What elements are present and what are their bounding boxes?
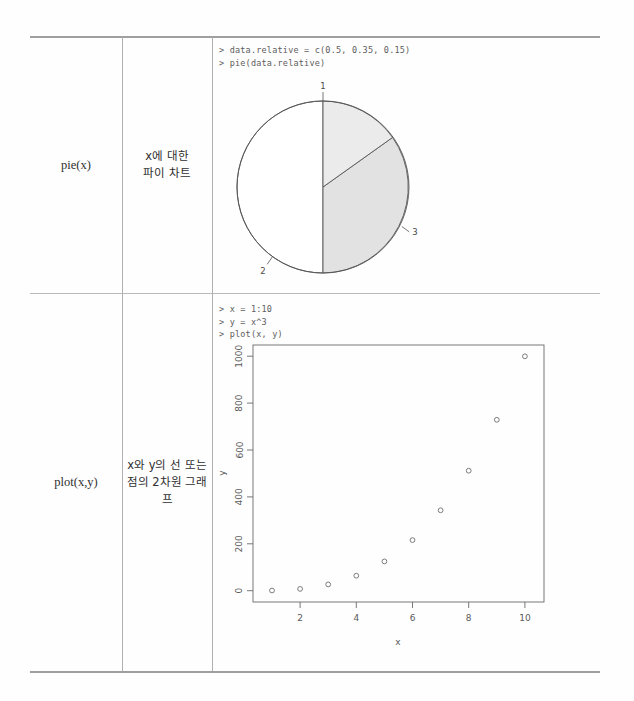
y-axis-ticks xyxy=(247,356,253,591)
pie-slice-1 xyxy=(237,101,323,273)
row-1-description-line-1: x에 대한 xyxy=(143,148,191,165)
y-tick-label-400: 400 xyxy=(235,488,245,505)
x-axis-tick-labels: 2 4 6 8 10 xyxy=(297,613,531,623)
y-tick-label-200: 200 xyxy=(235,535,245,552)
data-point-9 xyxy=(494,417,499,422)
data-point-7 xyxy=(438,508,443,513)
x-tick-label-2: 2 xyxy=(297,613,303,623)
y-tick-label-1000: 1000 xyxy=(235,344,245,367)
scatter-plot-panel: 0 200 400 600 800 1000 2 4 6 8 10 xyxy=(212,336,592,656)
pie-label-1: 1 xyxy=(320,81,325,91)
data-point-6 xyxy=(410,538,415,543)
data-point-5 xyxy=(382,559,387,564)
x-tick-label-4: 4 xyxy=(353,613,359,623)
data-point-10 xyxy=(523,354,528,359)
table-bottom-border xyxy=(30,671,600,673)
row-1-code-block: > data.relative = c(0.5, 0.35, 0.15) > p… xyxy=(219,44,410,69)
row-2-function-label: plot(x,y) xyxy=(54,473,97,491)
pie-label-2: 2 xyxy=(260,266,265,276)
data-point-8 xyxy=(466,468,471,473)
x-tick-label-10: 10 xyxy=(519,613,531,623)
row-1-function-cell: pie(x) xyxy=(30,37,122,293)
y-axis-tick-labels: 0 200 400 600 800 1000 xyxy=(235,344,245,593)
pie-tick-2 xyxy=(267,257,272,265)
y-axis-label: y xyxy=(217,470,227,476)
data-point-4 xyxy=(354,573,359,578)
plot-box xyxy=(253,345,544,602)
row-1-description-line-2: 파이 차트 xyxy=(143,165,191,182)
pie-tick-3 xyxy=(402,227,409,232)
row-2-description-line-2: 점의 2차원 그래프 xyxy=(122,474,212,507)
x-axis-ticks xyxy=(300,602,525,608)
row-1-function-label: pie(x) xyxy=(61,156,91,174)
x-tick-label-6: 6 xyxy=(410,613,416,623)
pie-label-3: 3 xyxy=(412,227,417,237)
row-2-code-block: > x = 1:10 > y = x^3 > plot(x, y) xyxy=(219,303,283,341)
x-tick-label-8: 8 xyxy=(466,613,472,623)
data-point-1 xyxy=(270,588,275,593)
row-2-function-cell: plot(x,y) xyxy=(30,294,122,671)
page-canvas: pie(x) x에 대한 파이 차트 > data.relative = c(0… xyxy=(0,0,634,701)
row-2-description-cell: x와 y의 선 또는 점의 2차원 그래프 xyxy=(122,294,212,671)
y-tick-label-600: 600 xyxy=(235,441,245,458)
data-point-2 xyxy=(298,587,303,592)
y-tick-label-800: 800 xyxy=(235,394,245,411)
row-1-description-cell: x에 대한 파이 차트 xyxy=(122,37,212,293)
pie-chart-svg: 1 2 3 xyxy=(212,76,462,291)
y-tick-label-0: 0 xyxy=(235,588,245,594)
row-2-description-text: x와 y의 선 또는 점의 2차원 그래프 xyxy=(122,457,212,507)
data-point-3 xyxy=(326,582,331,587)
scatter-plot-svg: 0 200 400 600 800 1000 2 4 6 8 10 xyxy=(212,336,592,656)
row-2-description-line-1: x와 y의 선 또는 xyxy=(122,457,212,474)
row-1-description-text: x에 대한 파이 차트 xyxy=(143,148,191,181)
pie-chart-panel: 1 2 3 xyxy=(212,76,462,291)
scatter-points xyxy=(270,354,528,593)
x-axis-label: x xyxy=(395,637,401,647)
